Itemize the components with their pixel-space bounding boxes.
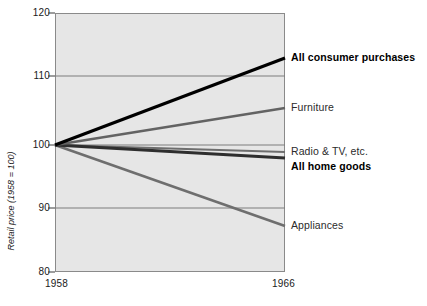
gridlines <box>55 76 285 208</box>
series-label-all-home-goods: All home goods <box>291 161 371 172</box>
series-label-appliances: Appliances <box>291 220 343 231</box>
y-axis-title: Retail price (1958 = 100) <box>6 141 16 261</box>
series-label-radio-and-tv: Radio & TV, etc. <box>291 146 368 157</box>
series-label-all-consumer-purchases: All consumer purchases <box>291 52 415 63</box>
series-line-all-consumer-purchases <box>55 58 285 145</box>
chart-container: 120 110 100 90 80 Retail price (1958 = 1… <box>0 0 427 306</box>
y-tick-label-110: 110 <box>4 71 50 81</box>
x-tick-label-1958: 1958 <box>45 279 68 289</box>
y-tick-label-80: 80 <box>4 267 50 277</box>
y-tick-label-120: 120 <box>4 8 50 18</box>
data-series <box>55 58 285 226</box>
series-label-furniture: Furniture <box>291 102 334 113</box>
x-tick-label-1966: 1966 <box>272 279 295 289</box>
series-line-furniture <box>55 108 285 145</box>
